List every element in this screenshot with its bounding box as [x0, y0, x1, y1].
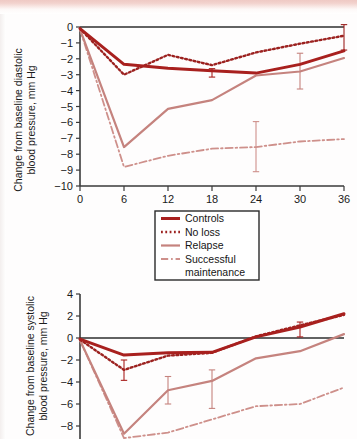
ytick-label: −5	[60, 101, 73, 113]
scan-top-band	[0, 0, 357, 9]
ytick-label: −9	[60, 164, 73, 176]
ytick-label: −8	[60, 148, 73, 160]
series-line-controls	[80, 29, 344, 74]
ytick-label: 4	[67, 288, 73, 300]
figure-page: Change from baseline diastolic blood pre…	[0, 0, 357, 439]
xtick-label: 6	[121, 193, 127, 205]
chart-diastolic-xticks: 061218243036	[77, 186, 350, 205]
chart-systolic-series	[80, 314, 344, 438]
ytick-label: 0	[67, 332, 73, 344]
ylabel-line-2: blood pressure, mm Hg	[25, 65, 37, 174]
xtick-label: 0	[77, 193, 83, 205]
error-bar	[209, 370, 215, 409]
chart-diastolic-ylabel: Change from baseline diastolic blood pre…	[12, 48, 37, 192]
legend-label-cont: maintenance	[185, 266, 245, 278]
legend-label: Controls	[185, 212, 224, 224]
chart-systolic: Change from baseline systolic blood pres…	[0, 288, 357, 439]
chart-diastolic-axes	[80, 27, 344, 186]
series-line-successful-maintenance	[80, 29, 344, 167]
ylabel-line-1: Change from baseline systolic	[24, 296, 36, 436]
legend-label: Relapse	[185, 239, 224, 251]
ytick-label: −6	[60, 398, 73, 410]
series-line-no-loss	[80, 315, 344, 370]
figure-legend: ControlsNo lossRelapseSuccessfulmaintena…	[0, 208, 357, 288]
ytick-label: −4	[60, 85, 73, 97]
chart-diastolic: Change from baseline diastolic blood pre…	[0, 10, 357, 210]
xtick-label: 18	[206, 193, 218, 205]
ytick-label: 0	[67, 21, 73, 33]
ytick-label: −8	[60, 420, 73, 432]
chart-systolic-ylabel: Change from baseline systolic blood pres…	[24, 296, 49, 436]
legend-label: No loss	[185, 226, 220, 238]
xtick-label: 24	[250, 193, 262, 205]
xtick-label: 12	[162, 193, 174, 205]
chart-diastolic-yticks: 0−1−2−3−4−5−6−7−8−9−10	[54, 21, 80, 192]
chart-systolic-yticks: 420−2−4−6−8	[60, 288, 80, 432]
ytick-label: −7	[60, 132, 73, 144]
ylabel-line-1: Change from baseline diastolic	[12, 48, 24, 192]
ytick-label: −1	[60, 37, 73, 49]
ylabel-line-2: blood pressure, mm Hg	[37, 311, 49, 420]
legend-label: Successful	[185, 253, 236, 265]
series-line-no-loss	[80, 29, 344, 75]
ytick-label: −10	[54, 180, 73, 192]
ytick-label: −2	[60, 354, 73, 366]
ytick-label: 2	[67, 310, 73, 322]
ytick-label: −6	[60, 116, 73, 128]
ytick-label: −3	[60, 69, 73, 81]
ytick-label: −4	[60, 376, 73, 388]
chart-diastolic-series	[80, 25, 347, 172]
series-line-relapse	[80, 29, 344, 147]
xtick-label: 30	[294, 193, 306, 205]
xtick-label: 36	[338, 193, 350, 205]
ytick-label: −2	[60, 53, 73, 65]
